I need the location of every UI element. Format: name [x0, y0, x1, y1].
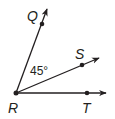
label-t: T — [82, 100, 92, 116]
point-s-dot — [80, 63, 85, 68]
ray-rs — [16, 58, 99, 93]
vertex-r-dot — [14, 91, 19, 96]
point-t-dot — [85, 91, 90, 96]
angle-measure-label: 45° — [30, 64, 48, 78]
angle-diagram: Q S T R 45° — [0, 0, 115, 119]
label-s: S — [75, 46, 85, 62]
label-q: Q — [27, 8, 38, 24]
point-q-dot — [40, 22, 45, 27]
label-r: R — [8, 100, 18, 116]
